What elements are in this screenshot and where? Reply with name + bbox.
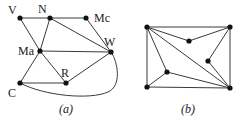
label-w: W [104, 35, 116, 49]
label-ma: Ma [18, 44, 35, 58]
node-w [108, 49, 113, 54]
edge-b1-b3 [147, 27, 189, 41]
label-c: C [8, 86, 16, 100]
edge-b6-b7 [147, 87, 230, 88]
graph-b: (b) [144, 24, 232, 116]
edge-ma-w [40, 51, 111, 52]
caption-a: (a) [59, 102, 73, 116]
node-c [17, 80, 22, 85]
label-n: N [38, 2, 47, 16]
node-b4 [205, 58, 210, 63]
edge-b5-b7 [167, 72, 230, 88]
node-v [17, 15, 22, 20]
node-b5 [164, 69, 169, 74]
node-b7 [227, 85, 232, 90]
node-b2 [227, 24, 232, 29]
label-mc: Mc [94, 11, 110, 25]
graph-figure: V N Mc Ma W R C (a) (b) [0, 0, 240, 124]
label-v: V [8, 3, 17, 17]
edge-n-ma [40, 18, 50, 51]
edge-b5-b6 [147, 72, 167, 87]
node-b3 [186, 38, 191, 43]
node-ma [37, 48, 42, 53]
node-b6 [144, 84, 149, 89]
node-b1 [144, 24, 149, 29]
edge-b1-b7 [147, 27, 230, 88]
edge-b3-b2 [189, 27, 230, 41]
node-r [63, 80, 68, 85]
label-r: R [61, 66, 69, 80]
edge-r-w [66, 52, 111, 83]
node-n [47, 15, 52, 20]
graph-a: V N Mc Ma W R C (a) [8, 2, 117, 116]
node-mc [83, 15, 88, 20]
edge-b2-b4 [208, 27, 230, 61]
caption-b: (b) [181, 102, 195, 116]
